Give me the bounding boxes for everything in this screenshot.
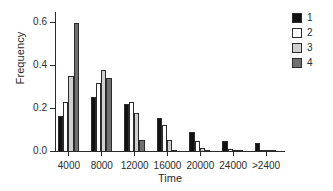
y-axis-tick-label: 0.4 — [33, 59, 47, 70]
legend-swatch-icon — [292, 43, 302, 53]
plot-area: 0.00.20.40.6 400080001200016000200002400… — [55, 12, 285, 152]
legend-label: 1 — [307, 13, 313, 23]
x-axis-tick-label: 24000 — [219, 160, 247, 171]
legend-label: 4 — [307, 58, 313, 68]
y-axis-tick-label: 0.2 — [33, 102, 47, 113]
x-axis-tick: 24000 — [233, 152, 234, 156]
legend-item: 4 — [292, 57, 313, 68]
x-axis-tick-label: >2400 — [252, 160, 280, 171]
x-axis-tick-label: 20000 — [186, 160, 214, 171]
legend-label: 3 — [307, 43, 313, 53]
x-axis-tick: 4000 — [68, 152, 69, 156]
bar — [238, 150, 243, 152]
bar — [74, 23, 79, 152]
bar — [139, 140, 144, 152]
legend-swatch-icon — [292, 28, 302, 38]
legend-item: 3 — [292, 42, 313, 53]
bar — [205, 150, 210, 152]
x-axis-tick: 8000 — [101, 152, 102, 156]
y-axis-tick-label: 0.6 — [33, 16, 47, 27]
x-axis-tick: >2400 — [266, 152, 267, 156]
legend-item: 1 — [292, 12, 313, 23]
bars-layer — [55, 12, 285, 152]
y-axis-title: Frequency — [14, 8, 26, 108]
x-axis-tick-label: 12000 — [121, 160, 149, 171]
x-axis-tick: 16000 — [167, 152, 168, 156]
x-axis-tick: 12000 — [134, 152, 135, 156]
x-axis-tick-label: 8000 — [91, 160, 113, 171]
legend-item: 2 — [292, 27, 313, 38]
bar-chart-figure: Frequency 0.00.20.40.6 40008000120001600… — [0, 0, 333, 191]
legend-swatch-icon — [292, 58, 302, 68]
legend-swatch-icon — [292, 13, 302, 23]
bar — [172, 150, 177, 152]
bar — [106, 78, 111, 152]
x-axis-tick-label: 16000 — [154, 160, 182, 171]
y-axis-tick-label: 0.0 — [33, 145, 47, 156]
bar — [271, 150, 276, 152]
x-axis-tick: 20000 — [200, 152, 201, 156]
x-axis-title: Time — [55, 172, 285, 184]
chart-legend: 1234 — [292, 12, 313, 68]
legend-label: 2 — [307, 28, 313, 38]
x-axis-tick-label: 4000 — [58, 160, 80, 171]
